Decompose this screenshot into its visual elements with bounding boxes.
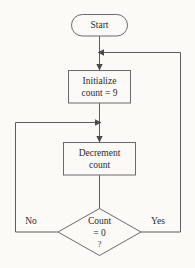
node-decision-label-line3: ?	[98, 240, 102, 249]
node-decrement-label-line2: count	[89, 160, 110, 170]
arrowhead-yes-into-initialize	[98, 49, 105, 55]
arrowhead-into-initialize	[96, 64, 102, 71]
branch-label-no: No	[25, 216, 37, 226]
node-initialize-label-line1: Initialize	[83, 76, 117, 86]
flowchart-canvas: Start Initialize count = 9 Decrement cou…	[0, 0, 195, 268]
node-start-label: Start	[91, 20, 109, 30]
branch-label-yes: Yes	[151, 216, 165, 226]
node-decrement-label-line1: Decrement	[79, 148, 121, 158]
node-decision-label-line2: = 0	[93, 228, 106, 238]
arrowhead-into-decrement	[96, 136, 102, 143]
arrowhead-no-into-decrement	[95, 119, 102, 125]
flowchart-svg: Start Initialize count = 9 Decrement cou…	[0, 0, 195, 268]
node-decision-label-line1: Count	[88, 216, 112, 226]
node-initialize-label-line2: count = 9	[82, 88, 118, 98]
